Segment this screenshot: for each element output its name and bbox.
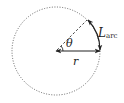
angle-label: θ: [66, 37, 73, 50]
arc-length-diagram: θ r L arc: [0, 0, 124, 103]
arc-length-label: L: [97, 26, 106, 40]
arc-length-subscript: arc: [106, 32, 118, 40]
angle-arc: [61, 46, 63, 51]
radius-label: r: [73, 55, 79, 68]
